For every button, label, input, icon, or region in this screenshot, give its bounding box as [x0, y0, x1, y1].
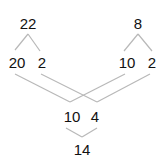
edge-22-to-20	[15, 34, 28, 50]
edges	[15, 34, 152, 137]
node-top-left: 22	[20, 15, 37, 32]
node-mid-left-a: 20	[9, 54, 26, 71]
edge-20-to-10	[15, 74, 70, 102]
node-bottom-b: 4	[91, 108, 99, 125]
edge-10-to-10	[70, 74, 125, 102]
node-bottom-a: 10	[64, 108, 81, 125]
edge-4-to-14	[82, 128, 97, 137]
node-mid-right-b: 2	[148, 54, 156, 71]
edge-8-to-10	[124, 34, 138, 51]
node-result: 14	[74, 141, 91, 158]
node-mid-right-a: 10	[119, 54, 136, 71]
node-top-right: 8	[134, 15, 142, 32]
edge-2-to-4-right	[97, 74, 150, 102]
edge-10-to-14	[66, 128, 82, 137]
edge-8-to-2	[138, 34, 152, 51]
edge-2-to-4-left	[41, 74, 97, 102]
diagram-svg: 22 8 20 2 10 2 10 4 14	[0, 0, 164, 163]
edge-22-to-2	[28, 34, 40, 51]
decomposition-diagram: 22 8 20 2 10 2 10 4 14	[0, 0, 164, 163]
node-mid-left-b: 2	[38, 54, 46, 71]
